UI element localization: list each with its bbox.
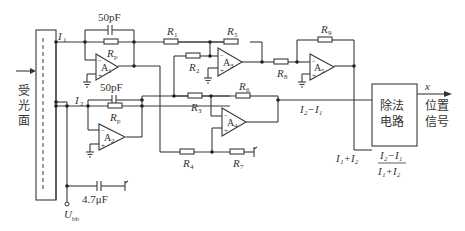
svg-text:2: 2 bbox=[80, 100, 84, 108]
svg-text:+: + bbox=[98, 72, 102, 80]
svg-text:R: R bbox=[276, 67, 284, 79]
svg-text:R: R bbox=[238, 80, 246, 92]
resistor-r8 bbox=[274, 59, 288, 64]
svg-text:6: 6 bbox=[246, 86, 250, 94]
wires bbox=[56, 30, 372, 202]
resistor-r9 bbox=[318, 37, 332, 42]
ground-icon bbox=[298, 82, 306, 87]
svg-text:+: + bbox=[224, 127, 228, 135]
output-var: x bbox=[424, 80, 430, 92]
svg-text:9: 9 bbox=[328, 29, 332, 37]
resistor-r2 bbox=[186, 53, 200, 58]
svg-text:R: R bbox=[320, 23, 328, 35]
c2-label: 50pF bbox=[100, 81, 123, 93]
resistor-r1 bbox=[164, 39, 178, 44]
chassis-ground-icon bbox=[254, 147, 257, 157]
svg-text:8: 8 bbox=[284, 73, 288, 81]
svg-text:3: 3 bbox=[198, 107, 202, 115]
supply-terminal bbox=[65, 202, 69, 206]
svg-text:R: R bbox=[109, 111, 117, 123]
svg-text:2: 2 bbox=[111, 137, 115, 145]
c3-label: 4.7μF bbox=[82, 193, 108, 205]
light-arrow-icon bbox=[16, 68, 36, 74]
svg-text:R: R bbox=[232, 157, 240, 169]
svg-text:7: 7 bbox=[240, 163, 244, 171]
supply-sub: bb bbox=[72, 215, 80, 223]
svg-text:+: + bbox=[312, 72, 316, 80]
output-arrow-icon bbox=[444, 91, 452, 97]
svg-text:4: 4 bbox=[190, 163, 194, 171]
sensor-label-1: 受 bbox=[18, 84, 30, 98]
svg-text:2: 2 bbox=[196, 67, 200, 75]
svg-text:4: 4 bbox=[234, 122, 238, 130]
psd-sensor bbox=[36, 30, 56, 200]
output-label-2: 信号 bbox=[425, 115, 449, 129]
svg-text:R: R bbox=[190, 101, 198, 113]
ratio-numerator: I₂−I₁ bbox=[379, 149, 403, 161]
svg-text:p: p bbox=[114, 53, 118, 61]
svg-text:p: p bbox=[117, 117, 121, 125]
capacitor-c1 bbox=[108, 25, 112, 35]
output-label-1: 位置 bbox=[425, 98, 449, 113]
ratio-denominator: I₁+I₂ bbox=[377, 165, 401, 177]
svg-text:R: R bbox=[182, 157, 190, 169]
svg-text:+: + bbox=[220, 67, 224, 75]
resistor-r5 bbox=[224, 39, 238, 44]
svg-text:R: R bbox=[106, 47, 114, 59]
svg-text:5: 5 bbox=[321, 67, 325, 75]
capacitor-c3 bbox=[97, 181, 101, 191]
sensor-label-2: 光 bbox=[18, 99, 30, 113]
sensor-label-3: 面 bbox=[18, 114, 30, 128]
resistor-rp1 bbox=[104, 39, 118, 44]
svg-text:+: + bbox=[101, 142, 105, 150]
svg-text:R: R bbox=[188, 61, 196, 73]
svg-text:1: 1 bbox=[174, 31, 178, 39]
psd-circuit-diagram: 受 光 面 bbox=[0, 0, 465, 231]
ground-icon bbox=[204, 78, 212, 83]
ground-icon bbox=[86, 152, 94, 157]
svg-text:1: 1 bbox=[108, 67, 112, 75]
svg-text:R: R bbox=[226, 25, 234, 37]
svg-text:3: 3 bbox=[230, 62, 234, 70]
ground-icon bbox=[83, 82, 91, 87]
resistor-rp2 bbox=[108, 103, 122, 108]
c1-label: 50pF bbox=[98, 11, 121, 23]
diff-signal-label: I₂−I₁ bbox=[299, 103, 323, 115]
svg-text:5: 5 bbox=[234, 31, 238, 39]
resistor-r7 bbox=[230, 149, 244, 154]
sum-signal-label: I₁+I₂ bbox=[335, 152, 359, 164]
svg-text:R: R bbox=[166, 25, 174, 37]
resistor-r4 bbox=[180, 149, 194, 154]
resistor-r3 bbox=[188, 93, 202, 98]
chassis-ground-icon bbox=[125, 181, 128, 191]
divider-label-1: 除法 bbox=[380, 98, 404, 113]
svg-text:1: 1 bbox=[63, 36, 67, 44]
divider-label-2: 电路 bbox=[380, 114, 404, 129]
